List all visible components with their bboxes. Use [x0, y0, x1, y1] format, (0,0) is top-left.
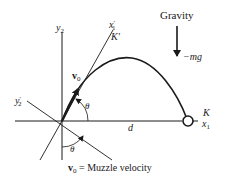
projectile-ball: [183, 116, 193, 126]
projectile-diagram: Gravity −mg y2 x′1 K′ y′2 K x1 v0 θ θ d …: [0, 0, 226, 186]
x1-prime-axis: [40, 30, 113, 160]
frame-prime-label: K′: [110, 31, 121, 42]
velocity-label: v0: [72, 70, 81, 83]
angle-top-label: θ: [85, 101, 90, 111]
distance-label: d: [128, 122, 134, 133]
force-label: −mg: [183, 51, 202, 62]
gravity-label: Gravity: [160, 9, 194, 21]
x1-axis-label: x1: [201, 118, 210, 131]
caption: v0 = Muzzle velocity: [68, 162, 152, 175]
frame-label: K: [202, 107, 211, 118]
trajectory-curve: [62, 58, 187, 121]
angle-bottom-label: θ: [70, 144, 75, 154]
y2-prime-axis-label: y′2: [14, 95, 22, 108]
y2-axis-label: y2: [55, 22, 64, 35]
velocity-vector-arrow: [62, 89, 78, 121]
